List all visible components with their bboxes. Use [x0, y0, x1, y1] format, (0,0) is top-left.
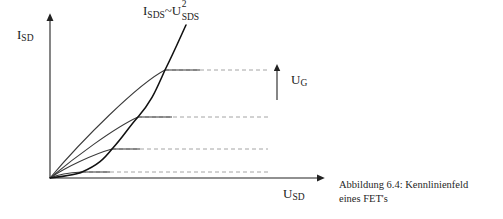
y-axis-label-sub: SD: [21, 33, 33, 43]
figure-caption: Abbildung 6.4: Kennlinienfeldeines FET's: [339, 178, 468, 207]
formula-voltage-main: U: [172, 3, 181, 18]
gate-voltage-label-main: U: [291, 72, 300, 87]
formula-voltage-supsub: 2SDS: [182, 3, 199, 21]
parabola-formula-label: ISDS~U2SDS: [143, 3, 199, 21]
formula-voltage-sub: SDS: [182, 13, 199, 22]
caption-line-1: Abbildung 6.4: Kennlinienfeld: [339, 178, 468, 192]
formula-relation: ~: [165, 3, 172, 18]
gate-voltage-label: UG: [291, 72, 307, 88]
formula-current-sub: SDS: [147, 10, 164, 20]
formula-voltage-sup: 2: [182, 0, 199, 9]
x-axis-label: USD: [283, 186, 305, 202]
gate-voltage-label-sub: G: [300, 78, 307, 88]
x-axis-label-main: U: [283, 186, 292, 201]
x-axis-label-sub: SD: [292, 192, 304, 202]
characteristic-curve-3: [50, 117, 172, 178]
y-axis-label: ISD: [17, 27, 34, 43]
caption-line-2: eines FET's: [339, 192, 468, 206]
figure-page: ISD USD UG ISDS~U2SDS Abbildung 6.4: Ken…: [0, 0, 503, 219]
